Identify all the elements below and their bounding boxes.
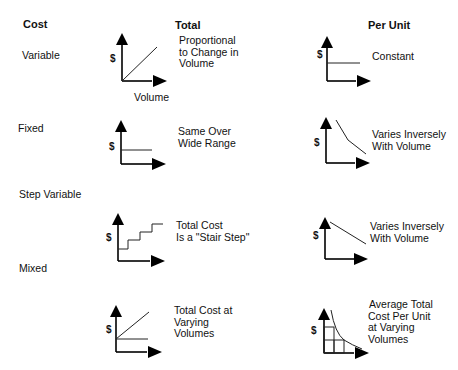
desc-line: With Volume — [372, 141, 446, 153]
fixed-total-graph — [115, 117, 175, 172]
desc-line: Volumes — [368, 334, 433, 346]
desc-line: Total Cost at — [174, 305, 232, 317]
row-label-fixed: Fixed — [18, 123, 44, 135]
fixed-per-unit-graph — [320, 114, 380, 174]
fixed-total-desc: Same Over Wide Range — [178, 126, 236, 149]
step-variable-total-graph — [112, 210, 172, 272]
desc-line: Average Total — [368, 299, 433, 311]
step-variable-total-desc: Total Cost Is a "Stair Step" — [176, 220, 249, 243]
cost-header: Cost — [23, 19, 47, 31]
desc-line: Varies Inversely — [372, 129, 446, 141]
dollar-axis-label: $ — [311, 325, 317, 336]
mixed-total-graph — [110, 302, 170, 362]
variable-per-unit-desc: Constant — [372, 51, 414, 63]
desc-line: Volumes — [174, 328, 232, 340]
desc-line: Total Cost — [176, 220, 249, 232]
dollar-axis-label: $ — [314, 137, 320, 148]
step-variable-per-unit-desc: Varies Inversely With Volume — [370, 221, 444, 244]
dollar-axis-label: $ — [109, 141, 115, 152]
desc-line: at Varying — [368, 322, 433, 334]
desc-line: Varies Inversely — [370, 221, 444, 233]
x-axis-label-volume: Volume — [134, 92, 169, 104]
mixed-total-desc: Total Cost at Varying Volumes — [174, 305, 232, 340]
row-label-variable: Variable — [22, 50, 60, 62]
variable-total-desc: Proportional to Change in Volume — [179, 35, 239, 70]
desc-line: Is a "Stair Step" — [176, 232, 249, 244]
desc-line: With Volume — [370, 233, 444, 245]
desc-line: Wide Range — [178, 138, 236, 150]
desc-line: Proportional — [179, 35, 239, 47]
per-unit-header: Per Unit — [368, 20, 410, 32]
fixed-per-unit-desc: Varies Inversely With Volume — [372, 129, 446, 152]
dollar-axis-label: $ — [106, 232, 112, 243]
dollar-axis-label: $ — [313, 230, 319, 241]
variable-total-graph — [115, 30, 175, 90]
total-header: Total — [175, 20, 200, 32]
mixed-per-unit-desc: Average Total Cost Per Unit at Varying V… — [368, 299, 433, 345]
row-label-step-variable: Step Variable — [19, 189, 81, 201]
desc-line: Same Over — [178, 126, 236, 138]
row-label-mixed: Mixed — [19, 263, 47, 275]
desc-line: Volume — [179, 58, 239, 70]
